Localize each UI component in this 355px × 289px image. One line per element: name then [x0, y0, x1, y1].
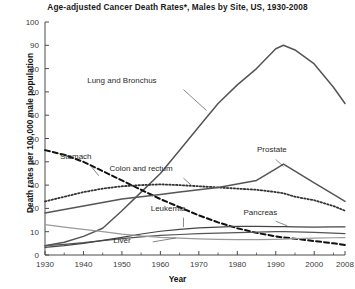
series-leader-line: [183, 90, 206, 111]
chart-container: Age-adjusted Cancer Death Rates*, Males …: [0, 0, 355, 289]
series-label: Pancreas: [243, 208, 277, 217]
series-label: Leukemia: [151, 204, 186, 213]
series-leader-line: [276, 159, 284, 166]
series-leader-line: [153, 238, 176, 242]
x-tick-labels: 193019401950196019701980199020002008: [36, 260, 354, 269]
y-tick-label: 60: [30, 111, 39, 120]
y-tick-label: 50: [30, 135, 39, 144]
series-line: [45, 164, 345, 213]
series-label: Stomach: [60, 152, 92, 161]
y-tick-label: 40: [30, 158, 39, 167]
series-leader-line: [183, 178, 191, 185]
axis-ticks: [45, 22, 345, 255]
y-tick-label: 0: [35, 251, 40, 260]
series-label: Colon and rectum: [110, 164, 173, 173]
series-label: Liver: [113, 236, 131, 245]
series-label: Lung and Bronchus: [87, 76, 156, 85]
axis-lines: [45, 22, 345, 255]
x-tick-label: 1930: [36, 260, 54, 269]
x-tick-label: 1940: [75, 260, 93, 269]
x-tick-label: 2000: [305, 260, 323, 269]
x-tick-label: 1970: [190, 260, 208, 269]
y-tick-label: 100: [26, 18, 40, 27]
x-tick-label: 1960: [151, 260, 169, 269]
chart-plot-area: 0102030405060708090100 19301940195019601…: [0, 0, 355, 289]
x-tick-label: 2008: [336, 260, 354, 269]
y-tick-labels: 0102030405060708090100: [26, 18, 40, 260]
x-tick-label: 1980: [228, 260, 246, 269]
y-tick-label: 10: [30, 228, 39, 237]
series-line: [45, 184, 345, 210]
y-tick-label: 30: [30, 181, 39, 190]
y-tick-label: 20: [30, 204, 39, 213]
series-label: Prostate: [257, 145, 287, 154]
series-labels: Lung and BronchusStomachColon and rectum…: [60, 76, 287, 246]
x-tick-label: 1990: [267, 260, 285, 269]
series-leader-line: [276, 221, 288, 226]
series-line: [45, 226, 345, 247]
y-tick-label: 80: [30, 65, 39, 74]
y-tick-label: 70: [30, 88, 39, 97]
x-tick-label: 1950: [113, 260, 131, 269]
y-tick-label: 90: [30, 41, 39, 50]
